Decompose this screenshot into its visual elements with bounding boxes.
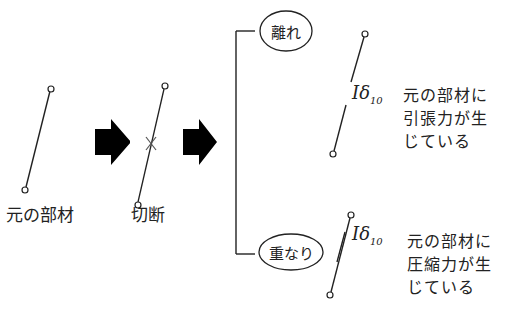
node-icon bbox=[348, 212, 354, 218]
case-label-overlap: 重なり bbox=[259, 242, 323, 263]
case-label-separated: 離れ bbox=[262, 21, 310, 42]
node-icon bbox=[330, 151, 336, 157]
original-member-label: 元の部材 bbox=[6, 204, 74, 226]
overlapping-member bbox=[327, 212, 354, 298]
displacement-label: Iδ10 bbox=[352, 223, 383, 247]
right-arrow-icon bbox=[183, 119, 217, 165]
compression-note: 元の部材に 圧縮力が生 じている bbox=[407, 230, 492, 299]
diagram-canvas: 元の部材 切断 離れ 重なり Iδ10 Iδ10 元の部材に 引張力が生 じてい… bbox=[0, 0, 514, 309]
cut-label: 切断 bbox=[131, 204, 165, 226]
node-icon bbox=[162, 83, 168, 89]
tension-note: 元の部材に 引張力が生 じている bbox=[403, 84, 488, 153]
branch-bracket bbox=[236, 31, 255, 254]
displacement-label: Iδ10 bbox=[352, 82, 383, 106]
node-icon bbox=[362, 31, 368, 37]
node-icon bbox=[327, 292, 333, 298]
